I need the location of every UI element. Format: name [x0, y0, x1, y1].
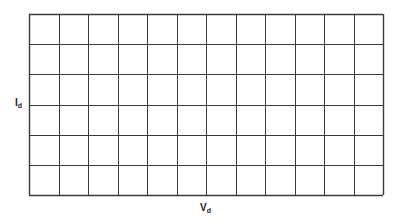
x-axis-subscript: d [207, 207, 211, 214]
x-axis-symbol: V [200, 202, 207, 213]
y-axis-label: Id [15, 98, 22, 109]
graph-grid [0, 0, 397, 222]
y-axis-subscript: d [18, 102, 22, 109]
x-axis-label: Vd [200, 203, 211, 214]
